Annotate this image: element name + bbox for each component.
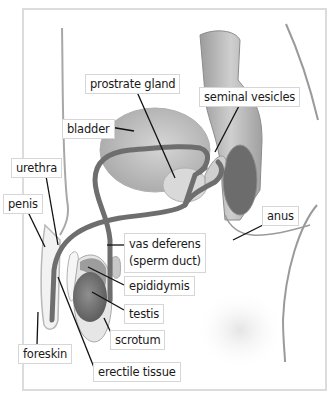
label-scrotum: scrotum — [110, 330, 165, 350]
label-vas-deferens-line1: vas deferens — [129, 236, 201, 253]
label-foreskin: foreskin — [18, 344, 72, 364]
rectum — [200, 31, 310, 235]
label-penis: penis — [3, 194, 43, 214]
label-testis: testis — [124, 304, 164, 324]
label-seminal-vesicles: seminal vesicles — [199, 87, 300, 107]
label-erectile-tissue: erectile tissue — [93, 362, 181, 382]
anatomy-illustration — [0, 0, 335, 397]
label-epididymis: epididymis — [124, 276, 195, 296]
label-vas-deferens-line2: (sperm duct) — [129, 253, 201, 270]
label-bladder: bladder — [62, 119, 115, 139]
label-urethra: urethra — [11, 158, 62, 178]
label-anus: anus — [262, 206, 299, 226]
label-prostrate-gland: prostrate gland — [85, 74, 180, 94]
label-vas-deferens: vas deferens (sperm duct) — [124, 233, 206, 273]
